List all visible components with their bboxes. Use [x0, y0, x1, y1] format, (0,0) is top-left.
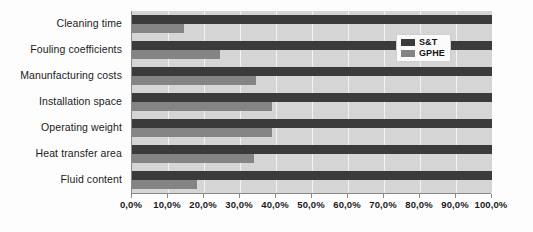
- axis-tick-label: 80,0%: [405, 199, 432, 210]
- axis-tick-label: 10,0%: [153, 199, 180, 210]
- bar-st: [132, 145, 492, 154]
- bar-gphe: [132, 180, 197, 189]
- category-axis: Cleaning timeFouling coefficientsManunfa…: [0, 11, 126, 193]
- category-label: Installation space: [0, 95, 122, 107]
- chart-legend: S&TGPHE: [396, 34, 451, 62]
- axis-tick-label: 20,0%: [189, 199, 216, 210]
- axis-tick-label: 90,0%: [441, 199, 468, 210]
- bar-gphe: [132, 24, 184, 33]
- bar-st: [132, 15, 492, 24]
- bar-gphe: [132, 102, 272, 111]
- axis-tick-label: 30,0%: [225, 199, 252, 210]
- bar-st: [132, 67, 492, 76]
- axis-tick: [455, 194, 456, 198]
- bar-st: [132, 171, 492, 180]
- bar-gphe: [132, 128, 272, 137]
- bar-gphe: [132, 50, 220, 59]
- bar-group: [132, 63, 492, 89]
- category-label: Fouling coefficients: [0, 43, 122, 55]
- axis-tick: [167, 194, 168, 198]
- legend-label: S&T: [419, 37, 437, 47]
- axis-tick-label: 50,0%: [297, 199, 324, 210]
- category-label: Manunfacturing costs: [0, 69, 122, 81]
- axis-tick-label: 0,0%: [120, 199, 142, 210]
- bar-chart-figure: Cleaning timeFouling coefficientsManunfa…: [0, 0, 533, 232]
- bar-st: [132, 93, 492, 102]
- legend-swatch-icon: [401, 39, 415, 46]
- axis-tick: [347, 194, 348, 198]
- bar-group: [132, 115, 492, 141]
- axis-tick: [239, 194, 240, 198]
- axis-tick: [203, 194, 204, 198]
- bar-gphe: [132, 154, 254, 163]
- axis-tick: [383, 194, 384, 198]
- category-label: Cleaning time: [0, 17, 122, 29]
- bar-group: [132, 89, 492, 115]
- axis-tick: [275, 194, 276, 198]
- category-label: Heat transfer area: [0, 147, 122, 159]
- axis-tick-label: 60,0%: [333, 199, 360, 210]
- axis-tick: [491, 194, 492, 198]
- legend-item: S&T: [401, 37, 445, 47]
- bar-st: [132, 119, 492, 128]
- axis-tick: [131, 194, 132, 198]
- axis-tick: [311, 194, 312, 198]
- legend-swatch-icon: [401, 50, 415, 57]
- axis-tick-label: 100,0%: [475, 199, 508, 210]
- value-axis-labels: 0,0%10,0%20,0%30,0%40,0%50,0%60,0%70,0%8…: [131, 199, 491, 213]
- axis-tick: [419, 194, 420, 198]
- bar-group: [132, 141, 492, 167]
- bar-group: [132, 167, 492, 193]
- category-label: Fluid content: [0, 173, 122, 185]
- category-label: Operating weight: [0, 121, 122, 133]
- legend-item: GPHE: [401, 48, 445, 58]
- axis-tick-label: 70,0%: [369, 199, 396, 210]
- axis-tick-label: 40,0%: [261, 199, 288, 210]
- bar-gphe: [132, 76, 256, 85]
- legend-label: GPHE: [419, 48, 445, 58]
